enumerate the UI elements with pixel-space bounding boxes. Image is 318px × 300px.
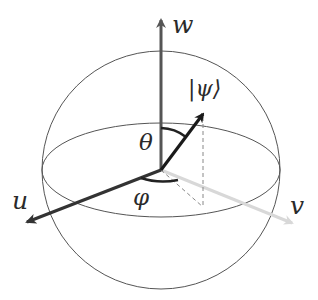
v-axis-label: v (290, 193, 304, 218)
state-label: |ψ⟩ (188, 78, 221, 100)
projection-dashed-radial (161, 170, 203, 207)
w-axis-label: w (172, 12, 193, 37)
phi-label: φ (133, 186, 149, 209)
v-axis-arrow (161, 170, 292, 223)
phi-arc (141, 178, 178, 181)
theta-label: θ (139, 131, 153, 154)
bloch-sphere-diagram: w |ψ⟩ θ φ u v (0, 0, 318, 300)
state-vector-arrow (161, 114, 203, 170)
u-axis-label: u (12, 188, 28, 213)
theta-arc (161, 128, 186, 137)
bloch-sphere-graphic (0, 0, 318, 300)
